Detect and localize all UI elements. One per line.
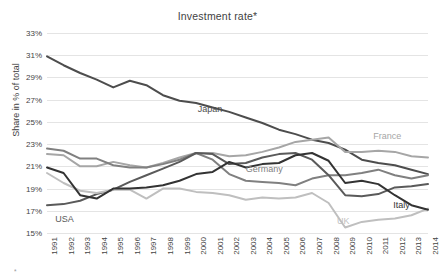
x-axis-tick-label: 2003 (249, 237, 258, 255)
x-axis-tick-label: 1991 (50, 237, 59, 255)
series-line-germany (47, 149, 428, 186)
y-axis-tick-label: 23% (26, 140, 42, 149)
x-axis-tick-label: 1999 (183, 237, 192, 255)
chart-footnote: * (14, 268, 17, 274)
y-axis-tick-label: 31% (26, 51, 42, 60)
x-axis-tick-label: 1997 (149, 237, 158, 255)
series-label-germany: Germany (246, 165, 283, 174)
y-axis-tick-label: 29% (26, 73, 42, 82)
x-axis-tick-label: 2007 (315, 237, 324, 255)
chart-title: Investment rate* (0, 10, 435, 22)
x-axis-tick-label: 1996 (133, 237, 142, 255)
x-axis-tick-label: 2006 (298, 237, 307, 255)
y-axis-tick-label: 15% (26, 229, 42, 238)
x-axis-tick-label: 2001 (216, 237, 225, 255)
series-label-japan: Japan (198, 105, 223, 114)
series-label-uk: UK (337, 217, 350, 226)
y-axis-tick-label: 25% (26, 117, 42, 126)
series-label-italy: Italy (393, 201, 410, 210)
x-axis-tick-label: 1995 (116, 237, 125, 255)
series-label-usa: USA (55, 215, 74, 224)
x-axis-tick-label: 2012 (398, 237, 407, 255)
x-axis-tick-label: 2002 (232, 237, 241, 255)
x-axis-tick-label: 1994 (100, 237, 109, 255)
plot-area: 15%17%19%21%23%25%27%29%31%33% 199119921… (47, 33, 428, 233)
x-axis-tick-label: 2010 (365, 237, 374, 255)
x-axis-tick-label: 1992 (67, 237, 76, 255)
x-axis-tick-label: 1993 (83, 237, 92, 255)
series-label-france: France (373, 132, 401, 141)
x-axis-tick-label: 1998 (166, 237, 175, 255)
x-axis-tick-label: 2004 (265, 237, 274, 255)
y-axis-tick-label: 27% (26, 95, 42, 104)
y-axis-title: Share in % of total (11, 40, 21, 160)
x-axis-tick-label: 2008 (332, 237, 341, 255)
gridline (47, 233, 428, 234)
y-axis-tick-label: 19% (26, 184, 42, 193)
y-axis-tick-label: 17% (26, 206, 42, 215)
y-axis-tick-label: 33% (26, 29, 42, 38)
x-axis-tick-label: 2009 (348, 237, 357, 255)
x-axis-tick-label: 2011 (381, 237, 390, 254)
y-axis-tick-label: 21% (26, 162, 42, 171)
x-axis-tick-label: 2005 (282, 237, 291, 255)
x-axis-tick-label: 2000 (199, 237, 208, 255)
series-lines (47, 33, 428, 233)
x-axis-tick-label: 2014 (431, 237, 440, 255)
series-line-uk (47, 173, 428, 227)
x-axis-tick-label: 2013 (414, 237, 423, 255)
